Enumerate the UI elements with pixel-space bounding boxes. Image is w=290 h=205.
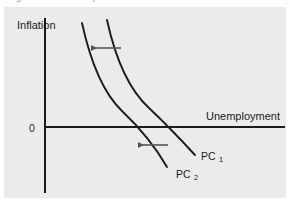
curve-label-pc2-base: PC	[176, 168, 191, 180]
plot-panel: Inflation Unemployment 0 PC 1 PC 2	[4, 7, 286, 198]
clipped-caption-strip: Figure — The Phillips Curve	[0, 0, 290, 7]
y-axis-label: Inflation	[17, 19, 56, 31]
curve-label-pc1-subscript: 1	[219, 155, 223, 164]
phillips-curve-figure: Figure — The Phillips Curve Inflation	[0, 0, 290, 205]
clipped-caption-text: Figure — The Phillips Curve	[8, 0, 133, 2]
curve-label-pc1: PC 1	[201, 150, 223, 164]
curve-label-pc2-subscript: 2	[194, 173, 198, 182]
curve-label-pc2: PC 2	[176, 168, 198, 182]
origin-label: 0	[29, 122, 35, 134]
x-axis-label: Unemployment	[206, 110, 280, 122]
curve-pc1	[107, 20, 195, 155]
phillips-curve-plot: Inflation Unemployment 0 PC 1 PC 2	[4, 7, 286, 198]
curve-label-pc1-base: PC	[201, 150, 216, 162]
